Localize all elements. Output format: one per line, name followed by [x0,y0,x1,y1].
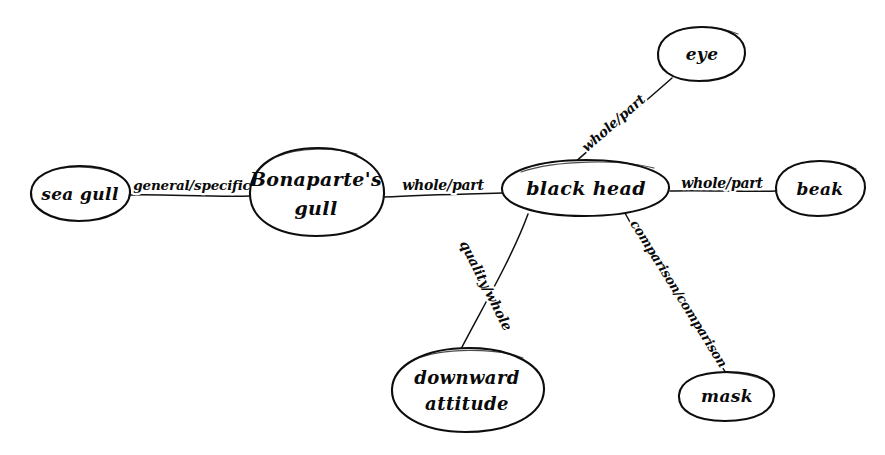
edge-label-quality-whole: quality/whole [457,238,516,334]
edge-label-whole-part-gull-head: whole/part [402,177,484,193]
node-label-downward-attitude-line1: downward [414,367,520,388]
edge-layer: general/specific whole/part whole/part w… [130,78,776,373]
diagram-canvas: general/specific whole/part whole/part w… [0,0,885,455]
node-bonapartes-gull[interactable]: Bonaparte's gull [249,148,384,236]
node-label-black-head: black head [526,177,646,199]
node-label-sea-gull: sea gull [40,184,119,204]
edge-black-head-eye: whole/part [573,78,672,164]
edge-bonapartes-black-head: whole/part [384,177,502,197]
node-eye[interactable]: eye [658,27,745,81]
node-mask[interactable]: mask [679,372,774,421]
edge-line [384,193,502,197]
edge-label-whole-part-head-eye: whole/part [578,90,649,154]
edge-label-general-specific: general/specific [133,177,250,193]
node-label-downward-attitude-line2: attitude [425,393,509,414]
node-label-mask: mask [701,386,753,406]
edge-line [130,195,250,196]
edge-sea-gull-bonapartes: general/specific [130,177,251,197]
node-layer: sea gull Bonaparte's gull black head bea… [31,27,865,432]
edge-black-head-downward: quality/whole [457,214,528,349]
node-label-bonapartes-gull-line2: gull [294,197,337,219]
node-beak[interactable]: beak [776,161,865,216]
semantic-network-graph: general/specific whole/part whole/part w… [0,0,885,455]
node-black-head[interactable]: black head [502,160,669,216]
node-outline [392,348,544,432]
node-label-beak: beak [796,179,843,199]
edge-line [461,214,528,349]
node-label-eye: eye [686,44,719,64]
node-label-bonapartes-gull-line1: Bonaparte's [249,168,382,190]
node-outline [250,148,384,236]
node-downward-attitude[interactable]: downward attitude [392,348,544,432]
edge-label-whole-part-head-beak: whole/part [681,175,763,191]
node-sea-gull[interactable]: sea gull [31,166,130,221]
edge-label-comparison-comparison: comparison/comparison [627,217,730,370]
edge-black-head-beak: whole/part [670,175,776,191]
edge-black-head-mask: comparison/comparison [625,213,730,373]
